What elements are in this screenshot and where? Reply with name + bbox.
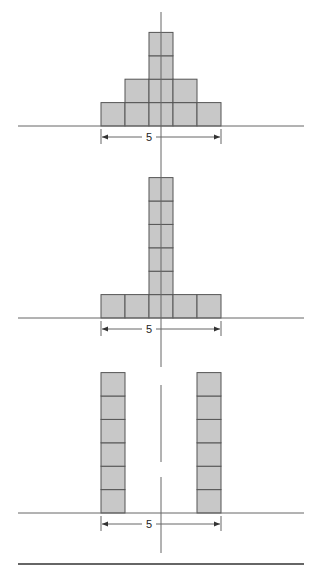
block [197,490,221,513]
block [101,396,125,419]
arrow-right-icon [214,327,220,332]
dimension-label: 5 [146,518,152,530]
block [125,79,149,102]
block [101,443,125,466]
lines-layer [18,12,304,564]
block [101,419,125,442]
block [101,466,125,489]
block [101,295,125,318]
arrow-right-icon [214,135,220,140]
block [197,419,221,442]
block [197,396,221,419]
arrow-left-icon [102,135,108,140]
dimension-label: 5 [146,131,152,143]
arrow-left-icon [102,522,108,527]
block [125,295,149,318]
block [173,79,197,102]
block [101,373,125,396]
block [197,443,221,466]
block [173,295,197,318]
block [173,103,197,126]
arrow-left-icon [102,327,108,332]
block [125,103,149,126]
block-distribution-diagram: 555 [0,0,320,574]
block [197,295,221,318]
block [197,103,221,126]
dimension-label: 5 [146,323,152,335]
block [101,103,125,126]
block [197,466,221,489]
arrow-right-icon [214,522,220,527]
block [101,490,125,513]
block [197,373,221,396]
